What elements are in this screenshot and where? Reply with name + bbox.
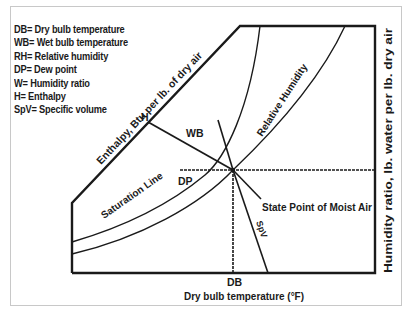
state-point bbox=[231, 168, 235, 172]
enthalpy-axis-label: Enthalpy, Btu per lb. of dry air bbox=[94, 49, 205, 166]
wb-label: WB bbox=[186, 127, 204, 139]
db-label: DB bbox=[227, 276, 243, 288]
h-label: H bbox=[141, 111, 149, 123]
relative-humidity-label: Relative Humidity bbox=[254, 61, 309, 138]
state-point-label: State Point of Moist Air bbox=[262, 201, 372, 213]
y-axis-label: Humidity ratio, lb. water per lb. dry ai… bbox=[383, 28, 394, 273]
saturation-line-label: Saturation Line bbox=[99, 170, 165, 221]
spv-label: SpV bbox=[254, 219, 269, 239]
psychrometric-chart: Enthalpy, Btu per lb. of dry air Relativ… bbox=[0, 0, 416, 316]
x-axis-label: Dry bulb temperature (°F) bbox=[184, 290, 304, 302]
dp-label: DP bbox=[178, 175, 193, 187]
